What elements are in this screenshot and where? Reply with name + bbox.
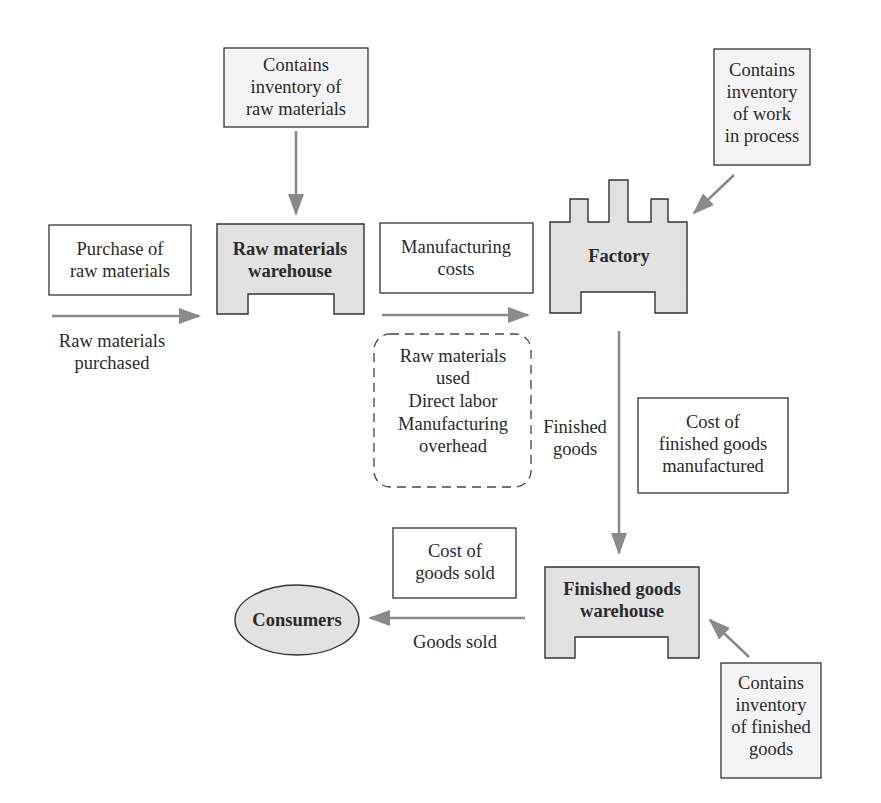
manufacturing-costs-note: Manufacturing costs [401, 236, 511, 280]
arrow-inventory-wip [694, 175, 734, 213]
purchase-raw-note: Purchase of raw materials [70, 238, 170, 282]
cost-goods-sold-note: Cost of goods sold [415, 540, 495, 584]
raw-materials-purchased-label: Raw materials purchased [59, 330, 165, 374]
arrow-inventory-finished [710, 620, 749, 657]
finished-goods-flow-label: Finished goods [543, 416, 607, 460]
finished-goods-warehouse-label: Finished goods warehouse [563, 578, 681, 622]
inventory-wip-note: Contains inventory of work in process [725, 59, 800, 147]
inventory-raw-note: Contains inventory of raw materials [246, 54, 346, 120]
factory-label: Factory [588, 245, 650, 267]
cost-components-note: Raw materials used Direct labor Manufact… [398, 345, 508, 457]
consumers-label: Consumers [252, 609, 341, 631]
inventory-finished-note: Contains inventory of finished goods [731, 672, 811, 760]
goods-sold-flow-label: Goods sold [413, 631, 497, 653]
cost-finished-manufactured-note: Cost of finished goods manufactured [659, 411, 767, 477]
raw-materials-warehouse-label: Raw materials warehouse [233, 238, 348, 282]
